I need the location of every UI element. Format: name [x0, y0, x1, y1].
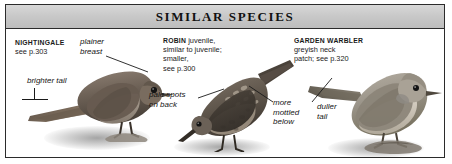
species-reference-garden-warbler: greyish neck patch; see p.320	[294, 45, 349, 63]
species-name-robin: ROBIN juvenile, similar to juvenile; sma…	[163, 36, 222, 73]
plate-header: SIMILAR SPECIES	[6, 5, 444, 29]
species-name-garden-warbler: GARDEN WARBLER	[294, 36, 363, 45]
species-name-nightingale: NIGHTINGALE	[15, 38, 65, 47]
page-title: SIMILAR SPECIES	[156, 9, 295, 25]
plate-body: NIGHTINGALE see p.303 plainer breast bri…	[6, 30, 444, 157]
leader-brighter-tail-horizontal	[22, 99, 48, 100]
species-name-robin-label: ROBIN	[163, 37, 186, 44]
callout-plainer-breast: plainer breast	[80, 37, 104, 56]
leader-more-mottled-below	[249, 86, 275, 104]
callout-duller-tail: duller tail	[317, 102, 337, 121]
similar-species-plate: SIMILAR SPECIES	[0, 0, 452, 164]
leader-duller-tail	[312, 78, 334, 104]
callout-more-mottled-below: more mottled below	[273, 98, 299, 127]
species-reference-nightingale: see p.303	[15, 47, 47, 56]
callout-pale-spots-on-back: pale spots on back	[149, 90, 185, 109]
leader-pale-spots	[198, 89, 226, 101]
callout-brighter-tail: brighter tail	[27, 76, 67, 86]
plate-frame: SIMILAR SPECIES	[5, 4, 445, 158]
leader-plainer-breast	[106, 54, 152, 76]
